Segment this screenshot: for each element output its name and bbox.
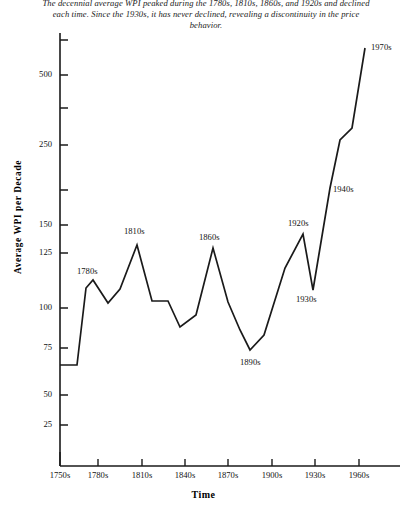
annotation-1940s: 1940s	[333, 184, 354, 194]
annotation-1920s: 1920s	[288, 218, 309, 228]
y-tick-label-100: 100	[18, 302, 52, 312]
y-tick-label-250: 250	[18, 139, 52, 149]
y-tick-label-500: 500	[18, 69, 52, 79]
y-tick-label-25: 25	[18, 419, 52, 429]
x-tick-label-1900s: 1900s	[249, 470, 295, 480]
y-tick-label-125: 125	[18, 247, 52, 257]
wpi-data-line	[60, 48, 365, 365]
y-tick-label-150: 150	[18, 219, 52, 229]
annotation-1810s: 1810s	[124, 226, 145, 236]
x-tick-label-1960s: 1960s	[336, 470, 382, 480]
annotation-1780s: 1780s	[77, 266, 98, 276]
x-axis-ticks	[60, 452, 359, 466]
y-tick-label-75: 75	[18, 342, 52, 352]
x-tick-label-1870s: 1870s	[205, 470, 251, 480]
chart-figure: The decennial average WPI peaked during …	[0, 0, 407, 508]
x-tick-label-1840s: 1840s	[162, 470, 208, 480]
x-tick-label-1780s: 1780s	[75, 470, 121, 480]
chart-plot-area	[0, 0, 407, 508]
annotation-1860s: 1860s	[199, 232, 220, 242]
x-tick-label-1930s: 1930s	[292, 470, 338, 480]
annotation-1930s: 1930s	[296, 294, 317, 304]
annotation-1890s: 1890s	[240, 357, 261, 367]
axis-lines	[60, 33, 400, 466]
x-axis-title: Time	[0, 489, 407, 500]
x-tick-label-1810s: 1810s	[119, 470, 165, 480]
y-axis-ticks	[60, 40, 68, 425]
y-axis-title: Average WPI per Decade	[13, 147, 23, 287]
annotation-1970s: 1970s	[371, 42, 392, 52]
y-tick-label-50: 50	[18, 389, 52, 399]
